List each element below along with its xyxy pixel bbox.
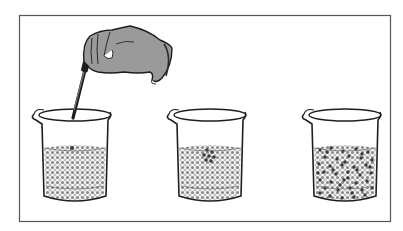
diffusion-diagram xyxy=(0,0,403,231)
dye-drop xyxy=(70,146,74,150)
